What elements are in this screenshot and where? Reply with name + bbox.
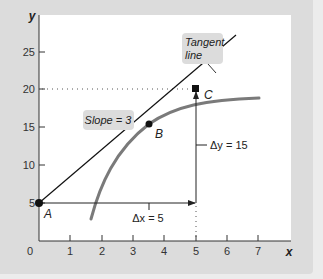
point-a-label: A (43, 207, 52, 221)
x-tick-label: 6 (224, 245, 230, 257)
tangent-label-line2: line (185, 49, 202, 61)
y-tick-label: 15 (23, 121, 35, 133)
slope-label: Slope = 3 (85, 114, 133, 126)
x-tick-label: 4 (161, 245, 167, 257)
x-axis-label: x (285, 245, 294, 259)
point-a (35, 199, 43, 207)
tangent-chart: 25 20 15 10 5 0 1 2 3 4 5 6 7 x y Δx = 5… (0, 0, 323, 279)
delta-x-label: Δx = 5 (132, 212, 164, 224)
y-tick-label: 25 (23, 46, 35, 58)
y-tick-label: 10 (23, 159, 35, 171)
y-tick-label: 5 (29, 197, 35, 209)
point-b-label: B (155, 127, 163, 141)
x-tick-label: 3 (130, 245, 136, 257)
delta-y-label: Δy = 15 (210, 139, 248, 151)
x-tick-label: 5 (193, 245, 199, 257)
y-axis-label: y (28, 9, 37, 23)
point-b (146, 121, 153, 128)
point-c-label: C (204, 88, 213, 102)
y-tick-label: 20 (23, 83, 35, 95)
x-tick-label: 1 (67, 245, 73, 257)
point-c (192, 85, 199, 92)
plot-area (39, 15, 291, 241)
x-tick-label: 2 (99, 245, 105, 257)
tangent-label-line1: Tangent (185, 36, 225, 48)
x-tick-label: 7 (255, 245, 261, 257)
origin-label: 0 (27, 245, 33, 257)
